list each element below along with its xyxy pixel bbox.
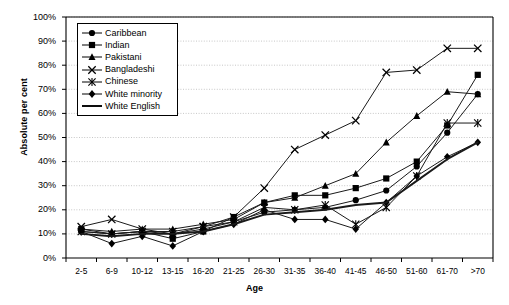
legend-label: Pakistani (103, 53, 142, 62)
legend-item: Indian (81, 39, 173, 51)
legend-marker-square (81, 39, 103, 51)
legend-marker-circle (81, 27, 103, 39)
x-axis-tick-label: >70 (452, 267, 504, 276)
legend-label: Indian (103, 41, 130, 50)
chart-legend: CaribbeanIndianPakistaniBangladeshiChine… (77, 23, 178, 116)
chart-figure: Absolute per cent 0%10%20%30%40%50%60%70… (0, 0, 509, 305)
legend-item: Pakistani (81, 51, 173, 63)
legend-item: White minority (81, 88, 173, 100)
legend-label: White minority (103, 90, 162, 99)
legend-marker-triangle (81, 51, 103, 63)
legend-label: White English (103, 102, 160, 111)
legend-marker-asterisk (81, 76, 103, 88)
legend-label: Caribbean (103, 29, 147, 38)
legend-marker-cross (81, 64, 103, 76)
x-axis-title: Age (0, 283, 509, 293)
legend-label: Bangladeshi (103, 65, 155, 74)
legend-label: Chinese (103, 77, 138, 86)
legend-item: Chinese (81, 76, 173, 88)
legend-item: White English (81, 100, 173, 112)
legend-marker-diamond (81, 88, 103, 100)
legend-marker-none (81, 100, 103, 112)
legend-item: Caribbean (81, 27, 173, 39)
legend-item: Bangladeshi (81, 64, 173, 76)
